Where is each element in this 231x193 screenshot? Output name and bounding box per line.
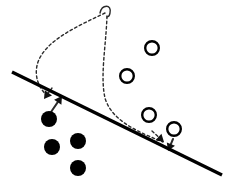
filled-class-point-1 — [44, 139, 60, 155]
filled-class-point-2 — [70, 133, 86, 149]
figure-container — [0, 0, 231, 193]
open-class-point-1 — [120, 69, 134, 83]
open-class-point-2 — [142, 108, 156, 122]
filled-class-point-0 — [41, 111, 57, 127]
filled-class-point-3 — [70, 160, 86, 176]
open-class-point-0 — [145, 41, 159, 55]
open-class-point-3 — [167, 122, 181, 136]
decision-boundary-figure — [0, 0, 231, 193]
